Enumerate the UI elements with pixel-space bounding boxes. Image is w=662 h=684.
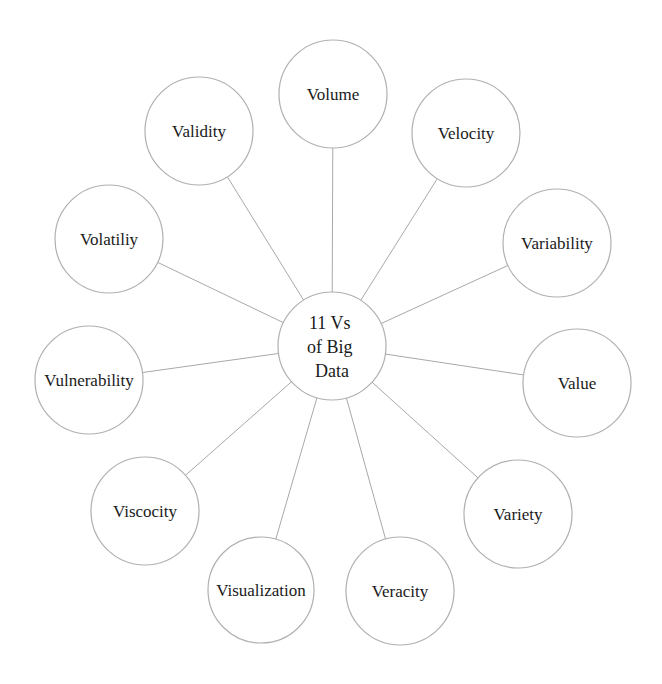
center-label-line-3: Data: [315, 361, 349, 381]
node-variety: Variety: [464, 460, 572, 568]
node-label: Vulnerability: [44, 371, 134, 390]
node-veracity: Veracity: [346, 537, 454, 645]
node-label: Variability: [521, 234, 593, 253]
node-velocity: Velocity: [412, 79, 520, 187]
node-label: Viscocity: [113, 502, 178, 521]
node-label: Validity: [172, 122, 226, 141]
node-label: Volume: [307, 85, 360, 104]
center-label-line-1: 11 Vs: [309, 313, 351, 333]
center-label-line-2: of Big: [307, 337, 353, 357]
node-visualization: Visualization: [208, 537, 314, 643]
node-label: Visualization: [216, 581, 306, 600]
node-variability: Variability: [503, 189, 611, 297]
node-vulnerability: Vulnerability: [35, 326, 143, 434]
node-volume: Volume: [279, 40, 387, 148]
node-viscocity: Viscocity: [91, 457, 199, 565]
big-data-vs-diagram: VolumeVelocityVariabilityValueVarietyVer…: [0, 0, 662, 684]
node-label: Volatiliy: [80, 230, 139, 249]
node-validity: Validity: [145, 77, 253, 185]
node-label: Velocity: [438, 124, 495, 143]
center-node: 11 Vs of Big Data: [278, 292, 386, 400]
node-volatiliy: Volatiliy: [55, 185, 163, 293]
node-value: Value: [523, 329, 631, 437]
node-label: Variety: [493, 505, 543, 524]
node-label: Value: [558, 374, 597, 393]
node-label: Veracity: [372, 582, 429, 601]
